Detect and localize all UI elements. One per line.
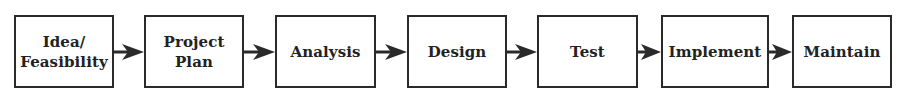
step-test: Test [537,15,638,88]
arrow-right-icon [244,43,275,61]
step-label: Test [570,42,605,62]
step-project-plan: Project Plan [144,15,244,88]
step-label: Project Plan [164,32,225,72]
step-design: Design [407,15,507,88]
step-label: Idea/ Feasibility [20,32,108,72]
arrow-right-icon [376,43,407,61]
step-label: Design [428,42,487,62]
arrow-right-icon [638,43,661,61]
step-label: Analysis [290,42,360,62]
step-label: Maintain [804,42,881,62]
arrow-right-icon [769,43,792,61]
step-maintain: Maintain [792,15,892,88]
step-idea-feasibility: Idea/ Feasibility [14,15,114,88]
arrow-right-icon [507,43,537,61]
step-implement: Implement [661,15,769,88]
step-analysis: Analysis [275,15,376,88]
arrow-right-icon [114,43,144,61]
step-label: Implement [669,42,762,62]
